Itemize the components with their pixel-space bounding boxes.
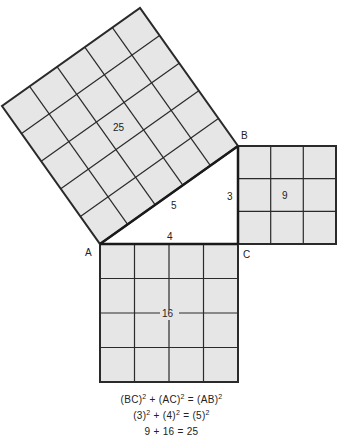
eq2-exp-3: 2 <box>206 409 210 416</box>
eq2-equals: = <box>180 410 192 421</box>
vertical-leg-area-label: 9 <box>282 190 288 201</box>
vertex-c-label: C <box>243 249 250 260</box>
eq2-plus: + <box>151 410 163 421</box>
side-ab-label: 5 <box>171 200 177 211</box>
eq1-term-ab: (AB) <box>197 394 218 405</box>
vertex-b-label: B <box>241 130 248 141</box>
equation-line-1: (BC)2 + (AC)2 = (AB)2 <box>0 393 343 405</box>
equation-line-3: 9 + 16 = 25 <box>0 426 343 437</box>
horizontal-leg-area-label: 16 <box>162 308 174 319</box>
eq2-term-4: (4) <box>163 410 176 421</box>
eq2-term-5: (5) <box>192 410 205 421</box>
eq2-term-3: (3) <box>133 410 146 421</box>
eq1-exp-3: 2 <box>218 393 222 400</box>
eq1-term-bc: (BC) <box>121 394 143 405</box>
pythagoras-diagram: 25 9 16 5 3 4 <box>0 0 343 445</box>
side-bc-label: 3 <box>227 191 233 202</box>
vertical-leg-square: 9 <box>238 146 336 244</box>
hypotenuse-square: 25 <box>2 8 238 244</box>
vertex-a-label: A <box>85 247 92 258</box>
eq1-equals: = <box>185 394 197 405</box>
side-ac-label: 4 <box>167 231 173 242</box>
equation-line-2: (3)2 + (4)2 = (5)2 <box>0 409 343 421</box>
hypotenuse-area-label: 25 <box>113 122 125 133</box>
horizontal-leg-square: 16 <box>100 244 238 382</box>
eq1-term-ac: (AC) <box>159 394 181 405</box>
eq1-plus: + <box>147 394 159 405</box>
